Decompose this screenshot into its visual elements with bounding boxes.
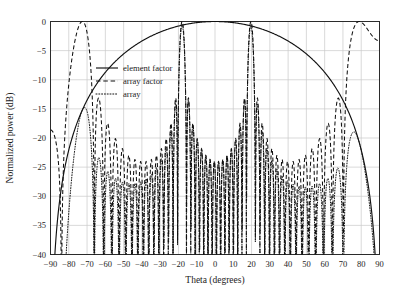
y-tick-label: −15 <box>33 104 46 114</box>
x-tick-label: 70 <box>339 259 348 269</box>
x-tick-label: 20 <box>247 259 256 269</box>
x-tick-label: −70 <box>80 259 93 269</box>
x-tick-label: 30 <box>266 259 275 269</box>
legend-label: array <box>123 89 141 99</box>
y-axis-title: Normalized power (dB) <box>5 93 16 184</box>
y-tick-label: −25 <box>33 162 46 172</box>
y-tick-label: −30 <box>33 191 46 201</box>
x-tick-label: 0 <box>213 259 217 269</box>
x-tick-label: −80 <box>62 259 75 269</box>
x-tick-label: −40 <box>135 259 148 269</box>
y-tick-label: 0 <box>42 17 46 27</box>
x-tick-label: −50 <box>117 259 130 269</box>
x-tick-label: −20 <box>172 259 185 269</box>
y-tick-label: −10 <box>33 75 46 85</box>
y-tick-label: −20 <box>33 133 46 143</box>
figure: −90−80−70−60−50−40−30−20−100102030405060… <box>0 0 407 297</box>
x-tick-label: 80 <box>357 259 366 269</box>
x-tick-label: −90 <box>44 259 57 269</box>
y-tick-label: −40 <box>33 250 46 260</box>
legend-label: element factor <box>123 63 173 73</box>
x-tick-label: 90 <box>375 259 384 269</box>
y-tick-label: −5 <box>37 46 46 56</box>
x-tick-label: 60 <box>320 259 329 269</box>
x-tick-label: 50 <box>302 259 311 269</box>
y-tick-label: −35 <box>33 220 46 230</box>
legend-label: array factor <box>123 76 163 86</box>
x-tick-label: −60 <box>99 259 112 269</box>
x-tick-label: −10 <box>190 259 203 269</box>
x-axis-title: Theta (degrees) <box>185 275 244 286</box>
x-tick-label: −30 <box>154 259 167 269</box>
x-tick-label: 40 <box>284 259 293 269</box>
radiation-pattern-chart: −90−80−70−60−50−40−30−20−100102030405060… <box>0 0 407 297</box>
x-tick-label: 10 <box>229 259 238 269</box>
